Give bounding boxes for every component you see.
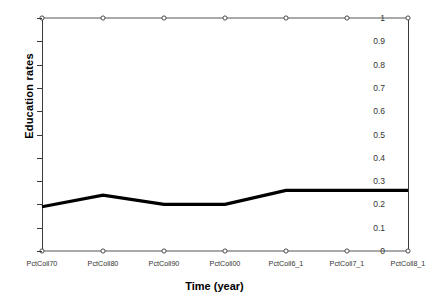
data-point-marker — [345, 249, 349, 253]
x-tick-label: PctColl6_1 — [251, 259, 321, 268]
series-line — [42, 190, 408, 206]
series-layer — [42, 18, 408, 251]
y-axis-title: Education rates — [23, 21, 35, 171]
y-tick-mark — [37, 88, 42, 89]
y-tick-label: 0.1 — [355, 224, 385, 232]
data-point-marker — [284, 249, 288, 253]
y-tick-label: 0.7 — [355, 84, 385, 92]
y-tick-label: 0.2 — [355, 200, 385, 208]
x-tick-label: PctColl00 — [190, 259, 260, 268]
x-tick-label: PctColl8_1 — [373, 259, 429, 268]
y-tick-mark — [37, 65, 42, 66]
y-tick-mark — [37, 111, 42, 112]
right-border-line — [408, 16, 409, 253]
data-point-marker — [162, 249, 166, 253]
y-tick-mark — [37, 204, 42, 205]
x-tick-label: PctColl70 — [7, 259, 77, 268]
y-tick-label: 0.9 — [355, 37, 385, 45]
y-tick-label: 0.4 — [355, 154, 385, 162]
x-axis-title: Time (year) — [0, 280, 429, 292]
x-tick-label: PctColl80 — [68, 259, 138, 268]
x-tick-label: PctColl7_1 — [312, 259, 382, 268]
y-tick-mark — [37, 18, 42, 19]
data-point-marker — [223, 16, 227, 20]
y-tick-mark — [37, 181, 42, 182]
data-point-marker — [223, 249, 227, 253]
data-point-marker — [162, 16, 166, 20]
y-tick-label: 1 — [355, 14, 385, 22]
y-tick-label: 0.3 — [355, 177, 385, 185]
chart-container: Education rates Time (year) 10.90.80.70.… — [0, 0, 429, 305]
y-tick-mark — [37, 158, 42, 159]
data-point-marker — [284, 16, 288, 20]
y-tick-label: 0 — [355, 247, 385, 255]
y-tick-label: 0.8 — [355, 61, 385, 69]
y-tick-mark — [37, 135, 42, 136]
data-point-marker — [101, 249, 105, 253]
y-tick-mark — [37, 41, 42, 42]
data-point-marker — [101, 16, 105, 20]
data-point-marker — [406, 249, 410, 253]
y-tick-mark — [37, 251, 42, 252]
y-tick-label: 0.5 — [355, 131, 385, 139]
y-tick-label: 0.6 — [355, 107, 385, 115]
data-point-marker — [345, 16, 349, 20]
data-point-marker — [406, 16, 410, 20]
x-tick-label: PctColl90 — [129, 259, 199, 268]
y-tick-mark — [37, 228, 42, 229]
plot-area — [42, 18, 408, 251]
